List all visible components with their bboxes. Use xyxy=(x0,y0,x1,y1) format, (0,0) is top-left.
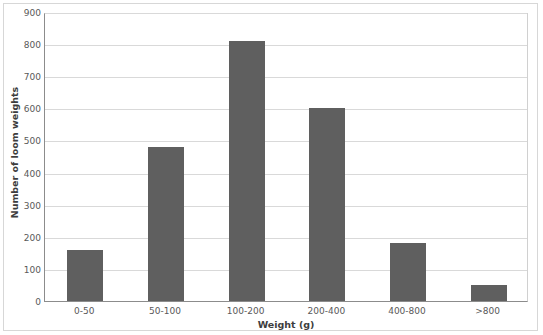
x-tick-label: 0-50 xyxy=(44,305,125,317)
y-tick-label: 900 xyxy=(3,9,41,18)
plot-area xyxy=(44,13,528,302)
bar-200-400 xyxy=(309,108,345,301)
bars xyxy=(45,14,527,301)
x-tick-label: 400-800 xyxy=(367,305,448,317)
bar-400-800 xyxy=(390,243,426,301)
y-axis-tick-labels: 0100200300400500600700800900 xyxy=(0,13,41,302)
bar-100-200 xyxy=(229,41,265,301)
bar-50-100 xyxy=(148,147,184,301)
x-tick-label: 50-100 xyxy=(125,305,206,317)
y-axis-title: Number of loom weights xyxy=(9,53,20,253)
x-tick-label: 100-200 xyxy=(205,305,286,317)
y-tick-label: 100 xyxy=(3,266,41,275)
x-tick-label: 200-400 xyxy=(286,305,367,317)
y-tick-label: 0 xyxy=(3,298,41,307)
bar-chart-figure: 0100200300400500600700800900 0-5050-1001… xyxy=(0,0,543,335)
bar->800 xyxy=(471,285,507,301)
bar-0-50 xyxy=(67,250,103,301)
y-tick-label: 800 xyxy=(3,41,41,50)
x-axis-title: Weight (g) xyxy=(44,319,528,330)
x-tick-label: >800 xyxy=(447,305,528,317)
